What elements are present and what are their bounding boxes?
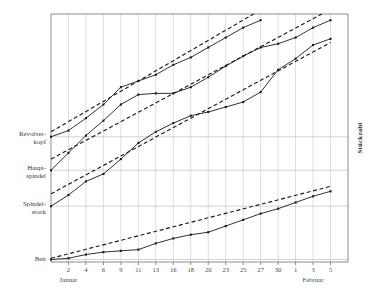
month-label: Februar <box>302 276 324 283</box>
data-marker <box>172 237 174 239</box>
data-marker <box>155 242 157 244</box>
y-category-label: Haupt- <box>27 164 47 171</box>
chart-container: 2469111316182023252730135 JanuarFebruar … <box>0 0 375 305</box>
data-marker <box>137 94 139 96</box>
data-marker <box>102 173 104 175</box>
data-marker <box>190 234 192 236</box>
data-marker <box>312 27 314 29</box>
data-marker <box>277 208 279 210</box>
data-marker <box>85 180 87 182</box>
y-category-label: kopf <box>34 138 47 145</box>
data-marker <box>67 194 69 196</box>
y-axis-title-group: Stückzahl <box>356 123 363 154</box>
data-marker <box>329 38 331 40</box>
x-tick-label: 1 <box>294 266 297 273</box>
data-marker <box>120 158 122 160</box>
data-marker <box>242 101 244 103</box>
y-category-label: spindel <box>26 172 46 179</box>
data-marker <box>50 169 52 171</box>
data-marker <box>225 106 227 108</box>
data-marker <box>207 46 209 48</box>
data-marker <box>242 55 244 57</box>
y-category-label: Revolver- <box>19 130 47 137</box>
data-marker <box>260 46 262 48</box>
data-marker <box>260 19 262 21</box>
data-marker <box>67 257 69 259</box>
data-marker <box>225 65 227 67</box>
data-marker <box>190 56 192 58</box>
x-tick-label: 16 <box>170 266 177 273</box>
data-marker <box>172 92 174 94</box>
data-marker <box>225 225 227 227</box>
data-marker <box>207 231 209 233</box>
data-marker <box>312 195 314 197</box>
data-marker <box>155 74 157 76</box>
data-marker <box>260 91 262 93</box>
data-marker <box>295 201 297 203</box>
data-marker <box>172 122 174 124</box>
data-marker <box>120 86 122 88</box>
data-marker <box>85 117 87 119</box>
data-marker <box>207 111 209 113</box>
data-marker <box>50 258 52 260</box>
data-marker <box>329 190 331 192</box>
data-marker <box>277 43 279 45</box>
data-marker <box>242 27 244 29</box>
x-tick-label: 30 <box>275 266 282 273</box>
data-marker <box>277 69 279 71</box>
data-marker <box>329 19 331 21</box>
x-tick-label: 2 <box>67 266 70 273</box>
data-marker <box>102 120 104 122</box>
month-label: Januar <box>60 276 78 283</box>
data-marker <box>50 136 52 138</box>
data-marker <box>120 103 122 105</box>
y-category-label: Spindel- <box>23 200 47 207</box>
x-tick-label: 11 <box>135 266 141 273</box>
y-axis-title: Stückzahl <box>356 123 363 154</box>
data-marker <box>137 142 139 144</box>
x-tick-label: 27 <box>257 266 264 273</box>
data-marker <box>295 58 297 60</box>
data-marker <box>190 86 192 88</box>
data-marker <box>85 254 87 256</box>
data-marker <box>67 130 69 132</box>
data-marker <box>242 219 244 221</box>
data-marker <box>155 92 157 94</box>
data-marker <box>102 251 104 253</box>
data-marker <box>190 115 192 117</box>
x-tick-label: 18 <box>187 266 194 273</box>
data-marker <box>137 249 139 251</box>
data-marker <box>102 103 104 105</box>
y-category-label: Bett <box>35 255 46 262</box>
data-marker <box>207 76 209 78</box>
stueckzahl-line-chart: 2469111316182023252730135 JanuarFebruar … <box>0 0 375 305</box>
data-marker <box>137 80 139 82</box>
x-tick-label: 23 <box>222 266 229 273</box>
data-marker <box>295 37 297 39</box>
data-marker <box>225 37 227 39</box>
x-tick-label: 25 <box>240 266 247 273</box>
data-marker <box>172 64 174 66</box>
data-marker <box>67 152 69 154</box>
y-category-label: stock <box>32 208 47 215</box>
x-tick-label: 20 <box>205 266 212 273</box>
data-marker <box>260 213 262 215</box>
x-tick-label: 13 <box>153 266 160 273</box>
data-marker <box>120 250 122 252</box>
data-marker <box>312 44 314 46</box>
data-marker <box>50 205 52 207</box>
data-marker <box>155 131 157 133</box>
data-marker <box>85 134 87 136</box>
